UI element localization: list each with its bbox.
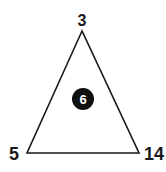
vertex-top-number: 3 xyxy=(78,12,87,29)
triangle-puzzle: 3 5 14 6 xyxy=(0,0,166,172)
vertex-bottom-right-number: 14 xyxy=(144,144,164,164)
center-number: 6 xyxy=(79,92,86,107)
vertex-bottom-left-number: 5 xyxy=(9,144,19,164)
